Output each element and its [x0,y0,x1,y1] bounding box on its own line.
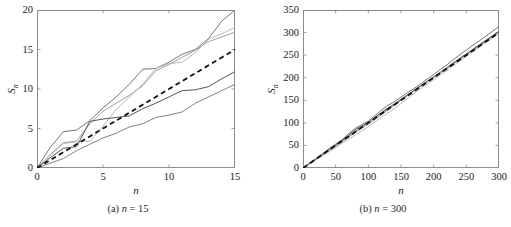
plot-area-b: 050100150200250300350 050100150200250300… [303,10,499,168]
x-tick-15: 15 [230,172,241,183]
x-tick-50: 50 [330,172,341,183]
plot-lines-a [37,10,235,168]
y-tick-150: 150 [283,95,299,106]
x-tick-5: 5 [100,172,105,183]
figure-container: 05101520 051015 n Sn (a) n = 15 05010015… [0,0,511,227]
x-tick-200: 200 [426,172,442,183]
caption-a: (a) n = 15 [0,203,256,214]
plot-area-a: 05101520 051015 n Sn [37,10,235,168]
x-axis-label-b: n [398,184,404,196]
y-tick-50: 50 [289,140,300,151]
x-tick-250: 250 [458,172,474,183]
x-tick-0: 0 [34,172,39,183]
y-tick-0: 0 [294,163,299,174]
x-tick-150: 150 [393,172,409,183]
caption-b: (b) n = 300 [255,203,511,214]
x-tick-100: 100 [360,172,376,183]
plot-lines-b [303,10,499,168]
y-axis-label-a: Sn [5,84,20,94]
series-mean-reference [37,50,235,169]
caption-b-var: n [374,203,379,214]
y-axis-label-b: Sn [265,84,280,94]
x-tick-0: 0 [300,172,305,183]
y-tick-0: 0 [28,163,33,174]
caption-b-prefix: (b) [359,203,371,214]
y-tick-10: 10 [23,84,34,95]
x-tick-10: 10 [164,172,175,183]
y-tick-200: 200 [283,72,299,83]
y-tick-20: 20 [23,5,34,16]
caption-a-eq: = 15 [130,203,149,214]
series-trajectory-4 [37,72,235,168]
x-axis-label-a: n [133,184,139,196]
y-tick-250: 250 [283,50,299,61]
caption-a-var: n [122,203,127,214]
series-trajectory-1 [37,10,235,168]
y-tick-300: 300 [283,27,299,38]
y-tick-350: 350 [283,5,299,16]
caption-a-prefix: (a) [107,203,119,214]
panel-b: 050100150200250300350 050100150200250300… [255,0,511,227]
series-trajectory-5 [37,84,235,168]
y-tick-15: 15 [23,44,34,55]
panel-a: 05101520 051015 n Sn (a) n = 15 [0,0,256,227]
caption-b-eq: = 300 [382,203,406,214]
series-trajectory-3 [37,27,235,168]
y-tick-5: 5 [28,123,33,134]
x-tick-300: 300 [491,172,507,183]
y-tick-100: 100 [283,118,299,129]
